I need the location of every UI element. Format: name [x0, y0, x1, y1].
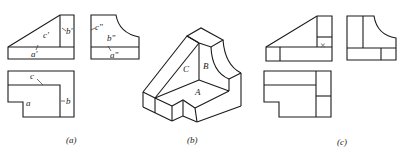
panel-a-side-view: c" b" a" — [91, 15, 139, 60]
label-c-prime: c' — [43, 30, 50, 40]
three-view-diagram: c' b' a' c" b" a" c a b (a) — [0, 0, 403, 153]
label-b-double-prime: b" — [107, 33, 116, 43]
label-a: a — [26, 98, 31, 108]
label-c: c — [30, 71, 34, 81]
label-c-double-prime: c" — [95, 22, 103, 32]
caption-c: (c) — [337, 137, 347, 147]
label-b-prime: b' — [66, 26, 74, 36]
panel-c-top-view — [264, 71, 331, 117]
label-a-double-prime: a" — [110, 50, 119, 60]
face-label-A: A — [194, 87, 201, 97]
label-b: b — [66, 96, 71, 106]
face-label-B: B — [203, 61, 209, 71]
error-mark-icon: × — [320, 40, 326, 51]
panel-c-front-view: × — [266, 16, 332, 61]
panel-a-front-view: c' b' a' — [8, 15, 74, 59]
panel-a: c' b' a' c" b" a" c a b (a) — [8, 15, 139, 145]
panel-b-isometric-view: C B A (b) — [143, 28, 241, 145]
label-a-prime: a' — [31, 49, 39, 59]
panel-a-top-view: c a b — [8, 71, 74, 117]
panel-c: × (c) — [264, 16, 396, 147]
caption-a: (a) — [66, 135, 77, 145]
panel-c-side-view — [347, 16, 396, 60]
caption-b: (b) — [187, 135, 198, 145]
face-label-C: C — [183, 64, 190, 74]
